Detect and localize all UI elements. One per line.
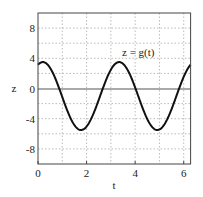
x-tick-label: 6	[181, 167, 187, 179]
y-tick-label: -8	[26, 143, 36, 155]
x-tick-label: 2	[84, 167, 90, 179]
x-axis-label: t	[112, 179, 115, 191]
y-tick-label: 4	[30, 52, 36, 64]
x-tick-label: 0	[35, 167, 41, 179]
y-tick-label: -4	[26, 113, 36, 125]
y-tick-labels: 840-4-8	[26, 22, 36, 155]
curve-annotation: z = g(t)	[122, 46, 155, 59]
x-tick-label: 4	[132, 167, 138, 179]
line-chart: 0246 840-4-8 t z z = g(t)	[0, 0, 203, 197]
y-axis-label: z	[12, 82, 17, 94]
data-line	[38, 62, 191, 130]
y-tick-label: 0	[30, 83, 36, 95]
y-tick-label: 8	[30, 22, 36, 34]
